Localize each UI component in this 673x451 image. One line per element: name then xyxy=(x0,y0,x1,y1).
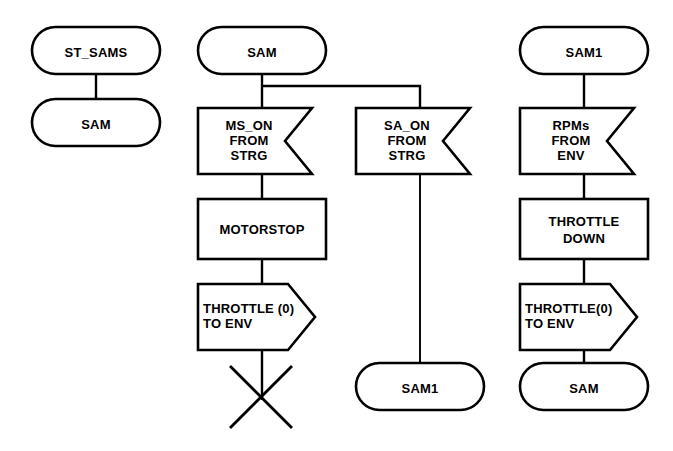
output-throttle-0-line2: TO ENV xyxy=(203,316,252,331)
input-sa-on-line2: FROM xyxy=(387,133,426,148)
input-ms-on-line3: STRG xyxy=(231,148,268,163)
flowline-branch-to-sa-on xyxy=(262,86,420,108)
state-sam-next-label: SAM xyxy=(569,381,599,396)
task-motorstop-label: MOTORSTOP xyxy=(219,222,304,237)
output-throttle-0-line1: THROTTLE (0) xyxy=(203,301,294,316)
column-sa-on: SA_ON FROM STRG SAM1 xyxy=(356,108,484,410)
column-start: ST_SAMS SAM xyxy=(32,27,160,146)
sdl-diagram: ST_SAMS SAM SAM MS_ON FROM STRG xyxy=(0,0,673,451)
state-sam-label: SAM xyxy=(247,45,277,60)
output-throttle-0-env-line2: TO ENV xyxy=(525,316,574,331)
input-rpms-line2: FROM xyxy=(551,133,590,148)
column-rpms: SAM1 RPMs FROM ENV THROTTLE DOWN THROTTL… xyxy=(520,27,648,410)
state-sam1-label: SAM1 xyxy=(566,45,603,60)
state-sam-start-label: SAM xyxy=(81,117,111,132)
output-throttle-0-env-line1: THROTTLE(0) xyxy=(525,301,612,316)
task-throttle-down-line1: THROTTLE xyxy=(549,214,620,229)
state-sam1-next-label: SAM1 xyxy=(402,381,439,396)
sdl-canvas: ST_SAMS SAM SAM MS_ON FROM STRG xyxy=(0,0,673,451)
input-ms-on-line2: FROM xyxy=(229,133,268,148)
task-throttle-down-line2: DOWN xyxy=(563,231,605,246)
input-sa-on-line3: STRG xyxy=(389,148,426,163)
task-throttle-down[interactable] xyxy=(520,199,648,259)
state-st-sams-label: ST_SAMS xyxy=(65,45,128,60)
input-rpms-line3: ENV xyxy=(557,148,584,163)
input-sa-on-line1: SA_ON xyxy=(384,118,430,133)
input-rpms-line1: RPMs xyxy=(553,118,590,133)
input-ms-on-line1: MS_ON xyxy=(225,118,272,133)
